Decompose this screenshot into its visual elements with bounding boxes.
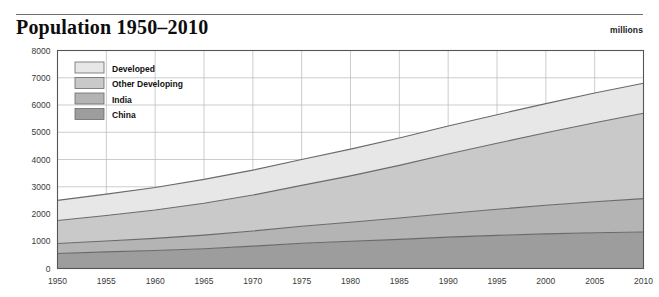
x-axis-tick-label: 1970	[243, 276, 262, 286]
y-axis-tick-label: 2000	[32, 209, 51, 219]
population-stacked-area-figure: Population 1950–2010 millions 0100020003…	[0, 0, 659, 297]
legend-label-other-developing: Other Developing	[112, 79, 183, 89]
x-axis-tick-labels: 1950195519601965197019751980198519901995…	[48, 276, 653, 286]
y-axis-tick-label: 5000	[32, 127, 51, 137]
population-area-chart: 010002000300040005000600070008000 195019…	[0, 0, 659, 297]
chart-legend: DevelopedOther DevelopingIndiaChina	[75, 62, 183, 120]
y-axis-tick-label: 3000	[32, 182, 51, 192]
legend-swatch-other-developing	[75, 78, 104, 89]
legend-swatch-china	[75, 109, 104, 120]
legend-label-india: India	[112, 95, 132, 105]
legend-swatch-developed	[75, 62, 104, 73]
y-axis-tick-label: 4000	[32, 155, 51, 165]
y-axis-tick-label: 7000	[32, 73, 51, 83]
x-axis-tick-label: 1990	[439, 276, 458, 286]
legend-swatch-india	[75, 93, 104, 104]
x-axis-tick-label: 2000	[536, 276, 555, 286]
x-axis-tick-label: 1960	[146, 276, 165, 286]
x-axis-tick-label: 1975	[292, 276, 311, 286]
legend-label-china: China	[112, 110, 136, 120]
x-axis-tick-label: 1965	[195, 276, 214, 286]
legend-label-developed: Developed	[112, 64, 155, 74]
x-axis-tick-label: 2010	[634, 276, 653, 286]
x-axis-tick-label: 1995	[488, 276, 507, 286]
y-axis-tick-label: 0	[46, 264, 51, 274]
y-axis-tick-labels: 010002000300040005000600070008000	[32, 46, 51, 274]
y-axis-tick-label: 6000	[32, 100, 51, 110]
y-axis-tick-label: 1000	[32, 236, 51, 246]
x-axis-tick-label: 1980	[341, 276, 360, 286]
x-axis-tick-label: 1955	[97, 276, 116, 286]
y-axis-tick-label: 8000	[32, 46, 51, 56]
x-axis-tick-label: 2005	[585, 276, 604, 286]
x-axis-tick-label: 1950	[48, 276, 67, 286]
x-axis-tick-label: 1985	[390, 276, 409, 286]
